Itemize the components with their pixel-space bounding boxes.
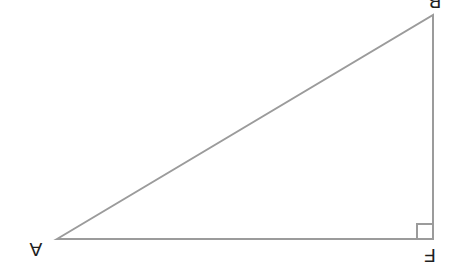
triangle-outline <box>57 15 433 239</box>
vertex-label-b: B <box>429 0 442 12</box>
vertex-label-a: A <box>29 239 42 260</box>
figure-canvas: A B F <box>0 0 457 279</box>
right-angle-marker <box>417 224 433 239</box>
vertex-label-f: F <box>424 245 436 266</box>
right-triangle-figure: A B F <box>0 0 457 279</box>
